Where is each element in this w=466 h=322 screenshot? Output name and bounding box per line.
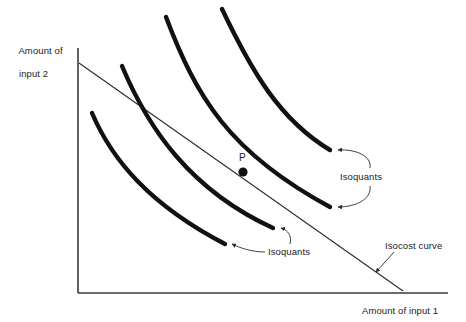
isoquants-label-upper: Isoquants [340, 171, 382, 183]
x-axis-label: Amount of input 1 [362, 305, 438, 317]
leader-arrow-to-curve-3 [338, 186, 370, 207]
isoquant-curve-3 [166, 17, 330, 207]
tangency-point-label: P [239, 152, 246, 164]
tangency-point-marker [238, 167, 247, 176]
diagram-canvas [0, 0, 466, 322]
y-axis-label-line1: Amount of [18, 45, 62, 56]
isoquant-curve-4 [222, 9, 330, 150]
isoquants-label-lower: Isoquants [268, 246, 310, 258]
leader-arrow-to-curve-4 [338, 150, 370, 168]
isoquant-curves-group [92, 9, 330, 244]
leader-arrow-to-curve-1 [232, 244, 265, 252]
y-axis-label: Amount of input 2 [8, 33, 63, 91]
y-axis-label-line2: input 2 [19, 68, 48, 79]
leader-arrow-to-isocost [376, 252, 394, 272]
isoquant-isocost-figure: Amount of input 2 Amount of input 1 Isoq… [0, 0, 466, 322]
leader-arrow-to-curve-2 [281, 228, 291, 244]
isocost-curve-label: Isocost curve [385, 240, 442, 252]
